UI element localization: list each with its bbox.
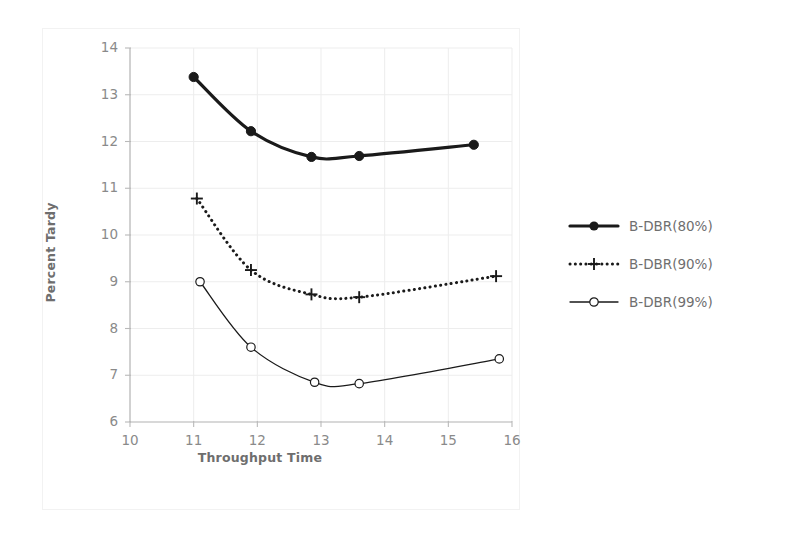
x-tick-label: 13: [301, 432, 341, 448]
data-point-marker: [307, 152, 316, 161]
legend-item-0[interactable]: B-DBR(80%): [568, 218, 713, 234]
y-tick-label: 9: [78, 273, 118, 289]
y-tick-label: 6: [78, 413, 118, 429]
y-axis-title: Percent Tardy: [43, 173, 58, 333]
data-point-marker: [355, 379, 363, 387]
x-tick-label: 11: [174, 432, 214, 448]
chart-figure: Throughput Time Percent Tardy 6789101112…: [0, 0, 791, 541]
data-point-marker: [310, 378, 318, 386]
data-point-marker: [469, 140, 478, 149]
legend-label: B-DBR(90%): [629, 256, 713, 272]
x-tick-label: 16: [492, 432, 532, 448]
y-tick-label: 8: [78, 320, 118, 336]
open-circle-icon: [568, 294, 620, 310]
x-tick-label: 14: [365, 432, 405, 448]
data-point-marker: [189, 72, 198, 81]
chart-legend: B-DBR(80%)B-DBR(90%)B-DBR(99%): [568, 218, 713, 310]
x-tick-label: 12: [237, 432, 277, 448]
legend-item-2[interactable]: B-DBR(99%): [568, 294, 713, 310]
series-line-1: [197, 199, 496, 299]
y-tick-label: 11: [78, 179, 118, 195]
series-line-2: [200, 282, 499, 387]
data-point-marker: [247, 343, 255, 351]
y-tick-label: 7: [78, 366, 118, 382]
y-tick-label: 13: [78, 86, 118, 102]
legend-item-1[interactable]: B-DBR(90%): [568, 256, 713, 272]
series-line-0: [194, 77, 474, 159]
y-tick-label: 12: [78, 133, 118, 149]
data-point-marker: [196, 278, 204, 286]
y-tick-label: 10: [78, 226, 118, 242]
y-tick-label: 14: [78, 39, 118, 55]
data-point-marker: [495, 355, 503, 363]
legend-label: B-DBR(80%): [629, 218, 713, 234]
filled-circle-icon: [568, 218, 620, 234]
legend-label: B-DBR(99%): [629, 294, 713, 310]
plus-icon: [568, 256, 620, 272]
x-axis-title: Throughput Time: [0, 450, 520, 465]
data-point-marker: [355, 151, 364, 160]
data-point-marker: [246, 127, 255, 136]
x-tick-label: 15: [428, 432, 468, 448]
x-tick-label: 10: [110, 432, 150, 448]
